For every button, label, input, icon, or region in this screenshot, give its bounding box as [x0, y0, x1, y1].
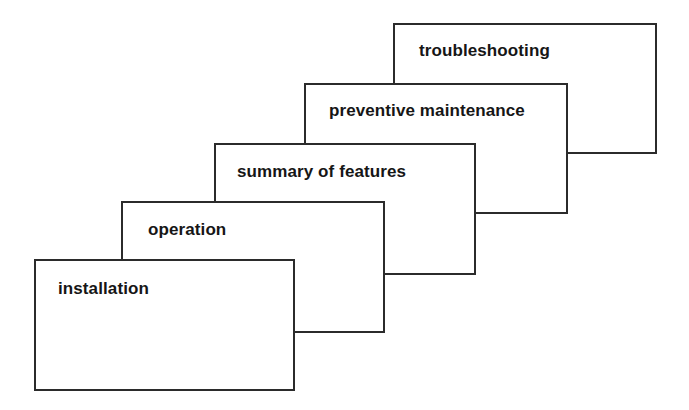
card-label-summary-of-features: summary of features: [237, 163, 406, 182]
diagram-canvas: troubleshooting preventive maintenance s…: [0, 0, 689, 410]
card-label-troubleshooting: troubleshooting: [419, 42, 550, 61]
card-label-installation: installation: [58, 280, 149, 299]
card-installation[interactable]: installation: [34, 259, 295, 391]
card-label-preventive-maintenance: preventive maintenance: [329, 102, 525, 121]
card-label-operation: operation: [148, 221, 226, 240]
